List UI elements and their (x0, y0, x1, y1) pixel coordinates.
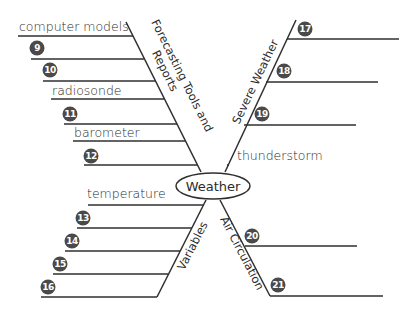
svg-text:Forecasting Tools and: Forecasting Tools and (148, 17, 216, 134)
badge-18: 18 (277, 64, 292, 79)
svg-text:11: 11 (64, 109, 76, 119)
badge-21: 21 (271, 278, 286, 293)
badge-20: 20 (245, 229, 260, 244)
badge-13: 13 (76, 211, 91, 226)
spine-label-air-circulation: Air Circulation (217, 214, 267, 292)
svg-text:17: 17 (299, 24, 311, 34)
badge-12: 12 (84, 149, 99, 164)
svg-text:19: 19 (256, 109, 268, 119)
item-radiosonde: radiosonde (52, 83, 122, 98)
svg-text:21: 21 (272, 280, 284, 290)
svg-text:10: 10 (44, 65, 56, 75)
branch-severe-weather: 17 18 19 thunderstorm Severe Weather (225, 20, 399, 172)
badge-10: 10 (43, 63, 58, 78)
center-node: Weather (176, 173, 250, 199)
badge-19: 19 (255, 107, 270, 122)
badge-17: 17 (298, 22, 313, 37)
svg-text:15: 15 (54, 259, 66, 269)
badge-16: 16 (41, 280, 56, 295)
center-label: Weather (186, 179, 241, 194)
svg-text:13: 13 (77, 213, 89, 223)
svg-text:18: 18 (278, 66, 290, 76)
badge-11: 11 (63, 107, 78, 122)
item-computer-models: computer models (19, 19, 129, 34)
svg-text:14: 14 (66, 236, 78, 246)
badge-15: 15 (53, 257, 68, 272)
badge-14: 14 (65, 234, 80, 249)
svg-text:Air Circulation: Air Circulation (217, 214, 267, 292)
item-barometer: barometer (74, 125, 141, 140)
svg-text:16: 16 (42, 282, 54, 292)
item-temperature: temperature (87, 186, 166, 201)
svg-text:12: 12 (85, 151, 97, 161)
fishbone-diagram: computer models 9 10 radiosonde 11 barom… (0, 0, 411, 310)
branch-forecasting: computer models 9 10 radiosonde 11 barom… (18, 17, 216, 172)
item-thunderstorm: thunderstorm (237, 148, 323, 163)
svg-text:20: 20 (246, 231, 258, 241)
branch-variables: temperature 13 14 15 16 Variables (41, 186, 211, 297)
svg-text:9: 9 (34, 43, 40, 53)
badge-9: 9 (30, 41, 45, 56)
branch-air-circulation: 20 21 Air Circulation (217, 200, 383, 296)
